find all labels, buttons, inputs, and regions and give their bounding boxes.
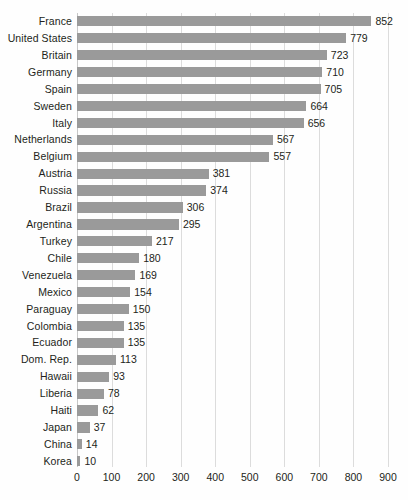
category-label: Chile (0, 250, 72, 267)
bar (77, 67, 322, 77)
x-tick-label: 900 (368, 471, 408, 483)
bar-row: Germany710 (0, 64, 408, 81)
bar-value-label: 306 (187, 199, 205, 216)
bar (77, 169, 209, 179)
category-label: Venezuela (0, 267, 72, 284)
category-label: Haiti (0, 402, 72, 419)
bar-row: Russia374 (0, 182, 408, 199)
bar-value-label: 135 (128, 334, 146, 351)
category-label: Japan (0, 419, 72, 436)
bar-chart: France852United States779Britain723Germa… (0, 0, 408, 500)
bar-row: Mexico154 (0, 284, 408, 301)
bar (77, 389, 104, 399)
bar-row: Argentina295 (0, 216, 408, 233)
category-label: Brazil (0, 199, 72, 216)
bar (77, 372, 109, 382)
bar-row: Haiti62 (0, 402, 408, 419)
bar-row: Austria381 (0, 165, 408, 182)
bar-value-label: 150 (133, 301, 151, 318)
bar-row: Netherlands567 (0, 131, 408, 148)
bar-value-label: 723 (331, 47, 349, 64)
bar (77, 253, 139, 263)
bar-value-label: 113 (120, 351, 137, 368)
bar-value-label: 374 (210, 182, 228, 199)
category-label: Turkey (0, 233, 72, 250)
bar-row: Colombia135 (0, 318, 408, 335)
category-label: Netherlands (0, 131, 72, 148)
bar (77, 236, 152, 246)
category-label: Colombia (0, 318, 72, 335)
bar-value-label: 93 (113, 368, 125, 385)
bar-value-label: 180 (143, 250, 161, 267)
bar (77, 355, 116, 365)
bar-row: Sweden664 (0, 98, 408, 115)
bar (77, 439, 82, 449)
bar (77, 50, 327, 60)
bar-value-label: 62 (102, 402, 114, 419)
bar (77, 270, 135, 280)
bar (77, 321, 124, 331)
category-label: Britain (0, 47, 72, 64)
bar-row: Italy656 (0, 115, 408, 132)
bar-value-label: 852 (375, 13, 393, 30)
bar-value-label: 295 (183, 216, 201, 233)
category-label: Dom. Rep. (0, 351, 72, 368)
bar (77, 202, 183, 212)
category-label: China (0, 436, 72, 453)
bar-value-label: 664 (310, 98, 328, 115)
bar-value-label: 154 (134, 284, 152, 301)
category-label: Mexico (0, 284, 72, 301)
bar-value-label: 78 (108, 385, 120, 402)
bar-row: Hawaii93 (0, 368, 408, 385)
bar-row: Japan37 (0, 419, 408, 436)
bar-value-label: 135 (128, 318, 146, 335)
category-label: Hawaii (0, 368, 72, 385)
category-label: Paraguay (0, 301, 72, 318)
bar-row: Liberia78 (0, 385, 408, 402)
bar (77, 101, 306, 111)
bar (77, 304, 129, 314)
bar-value-label: 710 (326, 64, 344, 81)
bar-value-label: 217 (156, 233, 174, 250)
bar-value-label: 567 (277, 131, 295, 148)
bar-value-label: 779 (350, 30, 368, 47)
bar (77, 422, 90, 432)
bar (77, 185, 206, 195)
bar-row: Brazil306 (0, 199, 408, 216)
category-label: Argentina (0, 216, 72, 233)
bar (77, 219, 179, 229)
bar (77, 16, 371, 26)
bar-row: France852 (0, 13, 408, 30)
category-label: Russia (0, 182, 72, 199)
bar (77, 287, 130, 297)
bar (77, 405, 98, 415)
bar-row: Venezuela169 (0, 267, 408, 284)
bar-value-label: 169 (139, 267, 157, 284)
category-label: France (0, 13, 72, 30)
bar-row: Dom. Rep.113 (0, 351, 408, 368)
category-label: Liberia (0, 385, 72, 402)
category-label: Spain (0, 81, 72, 98)
bar-row: Paraguay150 (0, 301, 408, 318)
bar-row: Turkey217 (0, 233, 408, 250)
bar-value-label: 557 (273, 148, 291, 165)
category-label: Germany (0, 64, 72, 81)
category-label: Italy (0, 115, 72, 132)
x-axis: 0100200300400500600700800900 (0, 467, 408, 500)
plot-area: France852United States779Britain723Germa… (0, 0, 408, 470)
bar-value-label: 14 (86, 436, 98, 453)
bar (77, 338, 124, 348)
bar (77, 84, 321, 94)
bar-value-label: 381 (213, 165, 231, 182)
bar-value-label: 705 (325, 81, 343, 98)
bar-value-label: 37 (94, 419, 106, 436)
bar-value-label: 656 (308, 115, 326, 132)
bar-row: Spain705 (0, 81, 408, 98)
category-label: Sweden (0, 98, 72, 115)
bar-row: Ecuador135 (0, 334, 408, 351)
category-label: United States (0, 30, 72, 47)
bar (77, 135, 273, 145)
bar (77, 456, 80, 466)
bar-rows: France852United States779Britain723Germa… (0, 0, 408, 470)
bar (77, 33, 346, 43)
